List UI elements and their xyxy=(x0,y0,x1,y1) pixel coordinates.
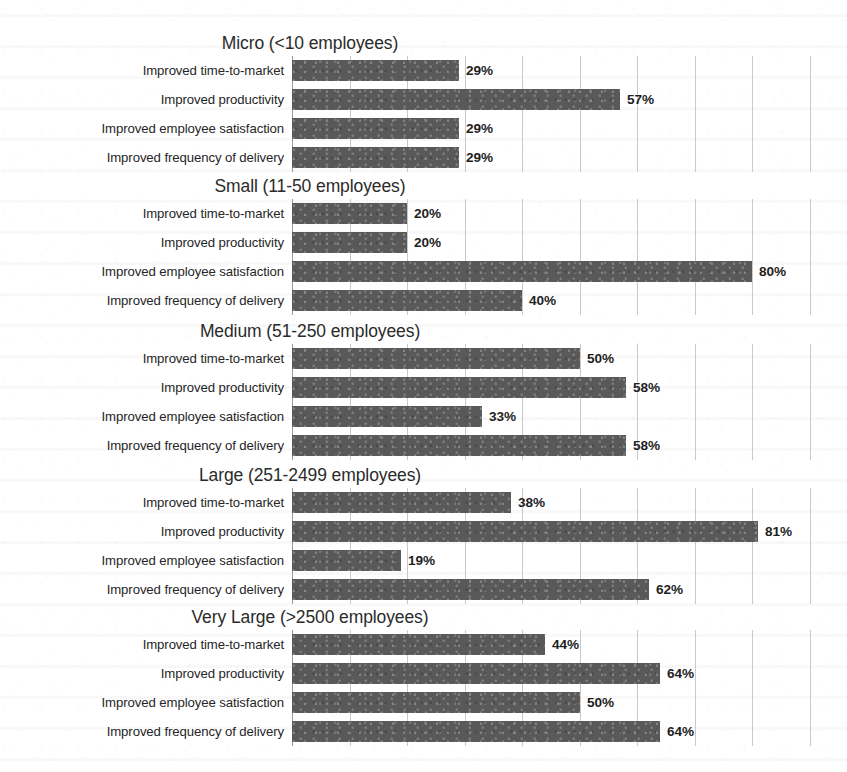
bar xyxy=(292,692,580,713)
bar-value-label: 62% xyxy=(656,582,683,597)
bar-row: Improved productivity81% xyxy=(0,517,847,546)
bar-and-value: 29% xyxy=(292,118,493,139)
category-label: Improved productivity xyxy=(0,666,284,681)
bar-value-label: 38% xyxy=(518,495,545,510)
bar-value-label: 19% xyxy=(408,553,435,568)
bar xyxy=(292,203,407,224)
category-label: Improved time-to-market xyxy=(0,63,284,78)
bar-and-value: 58% xyxy=(292,435,660,456)
bar-and-value: 64% xyxy=(292,663,694,684)
bar-row: Improved frequency of delivery62% xyxy=(0,575,847,604)
bar-row: Improved employee satisfaction33% xyxy=(0,402,847,431)
bar-value-label: 20% xyxy=(414,235,441,250)
bar xyxy=(292,261,752,282)
bar-and-value: 40% xyxy=(292,290,556,311)
bar-and-value: 20% xyxy=(292,232,441,253)
chart-panel-title: Large (251-2499 employees) xyxy=(0,465,620,486)
bar-and-value: 64% xyxy=(292,721,694,742)
bar-rows: Improved time-to-market29%Improved produ… xyxy=(0,56,847,172)
plot-area: Improved time-to-market50%Improved produ… xyxy=(0,344,847,460)
bar-and-value: 50% xyxy=(292,692,614,713)
bar-row: Improved employee satisfaction29% xyxy=(0,114,847,143)
bar-value-label: 58% xyxy=(633,380,660,395)
bar-row: Improved productivity20% xyxy=(0,228,847,257)
bar-value-label: 50% xyxy=(587,351,614,366)
bar-and-value: 81% xyxy=(292,521,792,542)
bar-row: Improved time-to-market50% xyxy=(0,344,847,373)
bar xyxy=(292,406,482,427)
bar-and-value: 38% xyxy=(292,492,545,513)
bar-and-value: 50% xyxy=(292,348,614,369)
bar-row: Improved employee satisfaction50% xyxy=(0,688,847,717)
bar-row: Improved frequency of delivery64% xyxy=(0,717,847,746)
category-label: Improved time-to-market xyxy=(0,351,284,366)
category-label: Improved productivity xyxy=(0,235,284,250)
bar-and-value: 80% xyxy=(292,261,786,282)
bar-and-value: 19% xyxy=(292,550,435,571)
category-label: Improved frequency of delivery xyxy=(0,582,284,597)
bar-and-value: 44% xyxy=(292,634,579,655)
plot-area: Improved time-to-market38%Improved produ… xyxy=(0,488,847,604)
bar-value-label: 29% xyxy=(466,150,493,165)
bar-row: Improved frequency of delivery40% xyxy=(0,286,847,315)
bar-and-value: 33% xyxy=(292,406,516,427)
category-label: Improved employee satisfaction xyxy=(0,695,284,710)
bar-value-label: 64% xyxy=(667,666,694,681)
bar-row: Improved time-to-market20% xyxy=(0,199,847,228)
bar-value-label: 64% xyxy=(667,724,694,739)
category-label: Improved productivity xyxy=(0,524,284,539)
bar-row: Improved frequency of delivery58% xyxy=(0,431,847,460)
bar-value-label: 81% xyxy=(765,524,792,539)
bar xyxy=(292,377,626,398)
bar-rows: Improved time-to-market50%Improved produ… xyxy=(0,344,847,460)
category-label: Improved frequency of delivery xyxy=(0,150,284,165)
bar-row: Improved productivity58% xyxy=(0,373,847,402)
small-multiples-bar-chart-figure: Micro (<10 employees)Improved time-to-ma… xyxy=(0,0,847,772)
bar xyxy=(292,634,545,655)
bar-row: Improved employee satisfaction19% xyxy=(0,546,847,575)
category-label: Improved employee satisfaction xyxy=(0,409,284,424)
plot-area: Improved time-to-market20%Improved produ… xyxy=(0,199,847,315)
category-label: Improved employee satisfaction xyxy=(0,121,284,136)
category-label: Improved frequency of delivery xyxy=(0,724,284,739)
bar xyxy=(292,89,620,110)
bar-row: Improved time-to-market38% xyxy=(0,488,847,517)
category-label: Improved time-to-market xyxy=(0,495,284,510)
bar xyxy=(292,348,580,369)
bar xyxy=(292,435,626,456)
bar-row: Improved time-to-market29% xyxy=(0,56,847,85)
bar-rows: Improved time-to-market20%Improved produ… xyxy=(0,199,847,315)
plot-area: Improved time-to-market44%Improved produ… xyxy=(0,630,847,746)
bar-value-label: 20% xyxy=(414,206,441,221)
bar xyxy=(292,118,459,139)
bar-and-value: 29% xyxy=(292,60,493,81)
category-label: Improved employee satisfaction xyxy=(0,553,284,568)
bar xyxy=(292,232,407,253)
bar-rows: Improved time-to-market44%Improved produ… xyxy=(0,630,847,746)
plot-area: Improved time-to-market29%Improved produ… xyxy=(0,56,847,172)
bar-value-label: 58% xyxy=(633,438,660,453)
category-label: Improved time-to-market xyxy=(0,637,284,652)
bar xyxy=(292,290,522,311)
bar-and-value: 29% xyxy=(292,147,493,168)
bar xyxy=(292,721,660,742)
chart-panel-title: Very Large (>2500 employees) xyxy=(0,607,620,628)
bar-value-label: 40% xyxy=(529,293,556,308)
bar xyxy=(292,579,649,600)
bar-value-label: 29% xyxy=(466,121,493,136)
bar xyxy=(292,492,511,513)
bar xyxy=(292,147,459,168)
bar-and-value: 62% xyxy=(292,579,683,600)
bar-value-label: 33% xyxy=(489,409,516,424)
bar-row: Improved employee satisfaction80% xyxy=(0,257,847,286)
category-label: Improved time-to-market xyxy=(0,206,284,221)
bar-value-label: 50% xyxy=(587,695,614,710)
bar-rows: Improved time-to-market38%Improved produ… xyxy=(0,488,847,604)
bar xyxy=(292,60,459,81)
bar-and-value: 58% xyxy=(292,377,660,398)
category-label: Improved frequency of delivery xyxy=(0,293,284,308)
bar xyxy=(292,663,660,684)
bar-value-label: 80% xyxy=(759,264,786,279)
bar-row: Improved productivity57% xyxy=(0,85,847,114)
bar-row: Improved time-to-market44% xyxy=(0,630,847,659)
